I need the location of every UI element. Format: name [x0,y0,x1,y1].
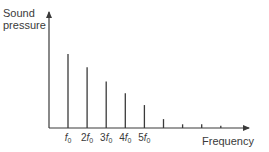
y-axis-label-line2: pressure [3,19,46,31]
y-axis-label-line1: Sound [3,7,35,19]
x-axis-label: Frequency [202,135,254,147]
x-tick-label-2: 2f0 [81,132,93,144]
x-tick-label-3: 3f0 [100,132,112,144]
harmonic-spectrum-chart: Sound pressure f02f03f04f05f0 Frequency [0,0,269,152]
x-tick-label-4: 4f0 [119,132,131,144]
x-tick-label-1: f0 [65,132,72,144]
harmonic-lines [68,54,221,128]
x-tick-label-5: 5f0 [138,132,150,144]
x-tick-labels: f02f03f04f05f0 [65,132,151,144]
